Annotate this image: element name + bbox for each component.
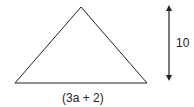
triangle-diagram: 10 (3a + 2) (0, 0, 194, 107)
triangle-shape (15, 7, 147, 83)
height-label: 10 (176, 37, 189, 49)
base-label: (3a + 2) (62, 92, 104, 104)
